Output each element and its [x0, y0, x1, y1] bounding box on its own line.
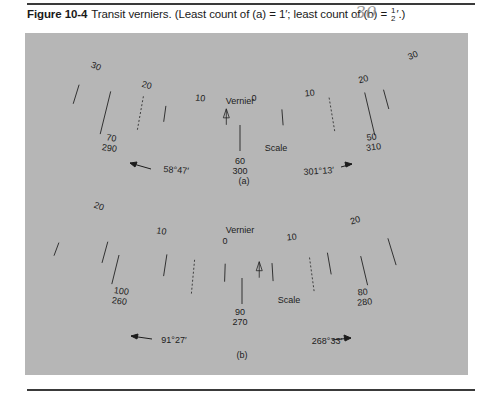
arrow-left-b-head [131, 334, 138, 339]
vernier-b-num-10-right: 10 [286, 232, 297, 243]
vernier-b-num-10-left: 10 [156, 225, 168, 237]
vernier-a-scale-310: 310 [365, 141, 381, 153]
vernier-a-num-20-left: 20 [141, 79, 153, 91]
vernier-b-scale-260: 260 [111, 295, 127, 307]
vernier-b-scale-280: 280 [357, 296, 373, 308]
vernier-b-scale-270: 270 [232, 317, 247, 327]
vernier-b-num-20-right: 20 [349, 214, 361, 226]
vernier-a-diagram [73, 85, 389, 151]
vernier-b-sublabel: (b) [237, 350, 248, 360]
vernier-b-reading-left: 91°27′ [161, 335, 187, 345]
arrow-right-a-head [345, 162, 352, 167]
arrow-left-a-head [130, 162, 137, 167]
vernier-a-num-20-right: 20 [357, 73, 369, 85]
bottom-rule [27, 389, 475, 391]
arrow-right-b-head [344, 335, 351, 341]
vernier-b-reading-right: 268°33′ [312, 336, 343, 346]
vernier-a-scale-label: Scale [265, 143, 288, 153]
vernier-b-scale-90: 90 [235, 307, 245, 317]
vernier-b-scale-label: Scale [278, 295, 301, 305]
vernier-a-scale-290: 290 [101, 142, 117, 154]
vernier-b-label: Vernier [226, 225, 255, 235]
vernier-b-num-0: 0 [222, 236, 227, 246]
vernier-a-label: Vernier [226, 96, 255, 106]
vernier-a-num-30-left: 30 [90, 60, 103, 73]
vernier-a-num-10-left: 10 [195, 93, 206, 104]
vernier-a-scale-300: 300 [232, 166, 247, 176]
vernier-a-num-30-right: 30 [406, 49, 419, 62]
vernier-a-num-0: 0 [251, 93, 256, 103]
vernier-diagrams: Vernier Scale (a) 30 20 10 0 10 20 30 70… [0, 0, 493, 393]
vernier-a-reading-left: 58°47′ [163, 164, 189, 176]
vernier-a-num-10-right: 10 [304, 88, 315, 99]
vernier-b-diagram [54, 238, 396, 304]
vernier-b-num-20-left: 20 [93, 200, 106, 213]
vernier-a-sublabel: (a) [239, 176, 250, 186]
vernier-a-scale-60: 60 [235, 156, 245, 166]
vernier-a-reading-right: 301°13′ [303, 165, 334, 177]
